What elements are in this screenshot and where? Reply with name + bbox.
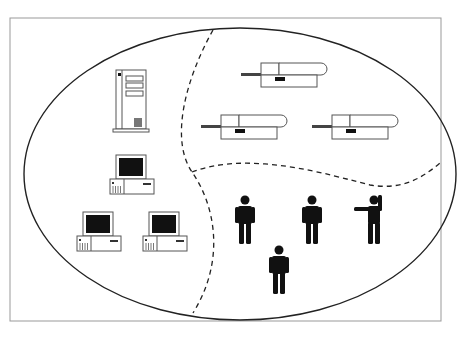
person-icon — [302, 196, 322, 245]
desktop-pc-icon — [110, 155, 154, 194]
desktop-pc-icon — [143, 212, 187, 251]
printer-icon — [312, 115, 398, 139]
printer-icon — [201, 115, 287, 139]
server-tower-icon — [113, 70, 149, 132]
printer-icon — [241, 63, 327, 87]
person-icon — [269, 246, 289, 295]
frame — [10, 18, 441, 321]
person-waving-icon — [354, 195, 382, 244]
network-diagram — [0, 0, 462, 338]
zone-divider-horizontal — [192, 163, 440, 186]
zone-divider-vertical — [181, 30, 213, 313]
person-icon — [235, 196, 255, 245]
desktop-pc-icon — [77, 212, 121, 251]
network-boundary — [24, 28, 456, 320]
